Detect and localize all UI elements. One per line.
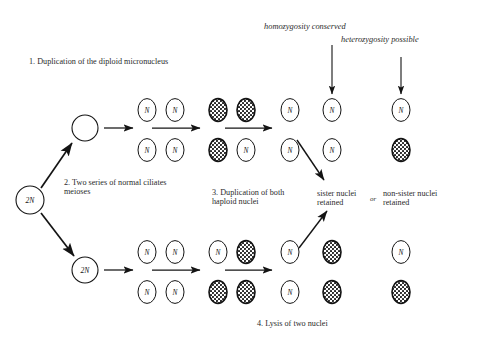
lower-branch-top-row-nucleus-4-stippled-outline [237,241,255,264]
heterozygosity-possible-label: heterozygosity possible [341,35,419,44]
lower-branch-bottom-row-nucleus-7 [392,281,410,304]
lower-branch-bottom-row-nucleus-7-stippled-outline [392,281,410,304]
upper-branch-bottom-row-nucleus-7 [392,139,410,162]
origin-cell-2n: 2N [16,186,44,214]
upper-branch-top-row-nucleus-3-stippled-outline [209,99,227,122]
lower-parent-cell: 2N [72,257,98,283]
lower-branch-bottom-row-nucleus-3-stippled-outline [209,281,227,304]
upper-branch-bottom-row-nucleus-1: N [138,139,156,162]
upper-parent-cell-outline [72,115,98,141]
ciliate-nuclear-lineage-diagram: 2N2NNNNNNNNNNNNNNNNNNN [0,0,479,340]
upper-branch-top-row-nucleus-4 [237,99,255,122]
upper-branch-top-row-nucleus-1: N [138,99,156,122]
upper-branch-top-row-nucleus-7: N [392,99,410,122]
lower-branch-top-row-nucleus-5: N [281,241,299,264]
origin-cell-2n-label: 2N [26,196,36,205]
upper-branch-bottom-row-nucleus-6: N [323,139,341,162]
upper-branch-bottom-row-nucleus-4: N [237,139,255,162]
lower-parent-cell-label: 2N [81,266,91,275]
upper-branch-top-row-nucleus-3 [209,99,227,122]
upper-branch-bottom-row-nucleus-2: N [166,139,184,162]
lower-to-sister-arrow [299,211,327,248]
or-connector-label: or [370,196,376,204]
non-sister-nuclei-retained-label: non-sister nuclei retained [383,189,463,207]
upper-branch-top-row-nucleus-4-stippled-outline [237,99,255,122]
step-2-label: 2. Two series of normal ciliates meioses [64,178,204,196]
lower-branch-bottom-row-nucleus-1: N [138,281,156,304]
step-4-label: 4. Lysis of two nuclei [257,319,328,328]
lower-branch-top-row-nucleus-3: N [209,241,227,264]
lower-branch-bottom-row-nucleus-5: N [281,281,299,304]
lower-branch-top-row-nucleus-1: N [138,241,156,264]
lower-branch-bottom-row-nucleus-4-stippled-outline [237,281,255,304]
lower-branch-bottom-row-nucleus-2: N [166,281,184,304]
upper-branch-bottom-row-nucleus-7-stippled-outline [392,139,410,162]
step-3-label: 3. Duplication of both haploid nuclei [212,188,322,206]
upper-branch-top-row-nucleus-5: N [281,99,299,122]
upper-branch-bottom-row-nucleus-3 [209,139,227,162]
lower-branch-bottom-row-nucleus-3 [209,281,227,304]
lower-branch-top-row-nucleus-4 [237,241,255,264]
upper-parent-cell [72,115,98,141]
upper-branch-bottom-row-nucleus-3-stippled-outline [209,139,227,162]
lower-branch-top-row-nucleus-2: N [166,241,184,264]
upper-branch-bottom-row-nucleus-5: N [281,139,299,162]
lower-branch-bottom-row-nucleus-6-stippled-outline [323,281,341,304]
lower-branch-top-row-nucleus-6-stippled-outline [323,241,341,264]
sister-nuclei-retained-label: sister nuclei retained [317,189,369,207]
lower-branch-bottom-row-nucleus-6 [323,281,341,304]
lower-branch-top-row-nucleus-7: N [392,241,410,264]
origin-to-lower [41,213,74,256]
upper-to-sister-arrow [297,140,324,180]
upper-branch-top-row-nucleus-6: N [323,99,341,122]
lower-branch-bottom-row-nucleus-4 [237,281,255,304]
upper-branch-top-row-nucleus-2: N [166,99,184,122]
step-1-label: 1. Duplication of the diploid micronucle… [29,57,168,66]
lower-branch-top-row-nucleus-6 [323,241,341,264]
homozygosity-conserved-label: homozygosity conserved [264,22,346,31]
